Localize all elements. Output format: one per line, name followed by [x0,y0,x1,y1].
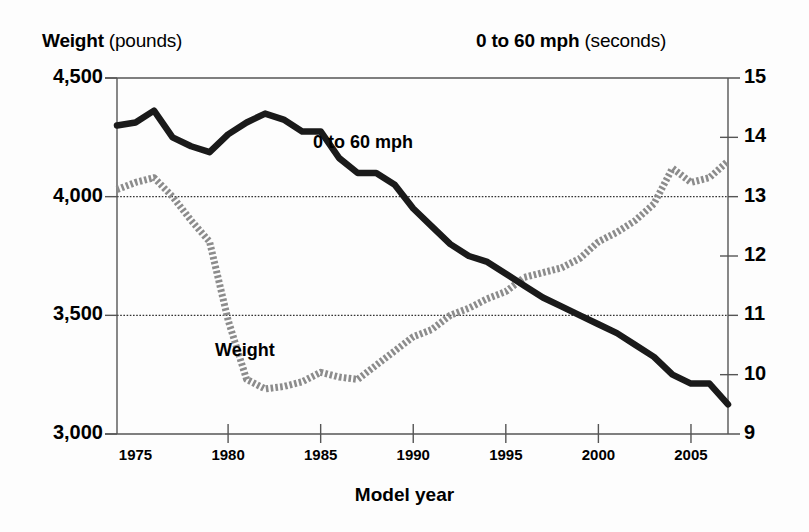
y-right-tick-13: 13 [744,184,794,207]
series-line-accel [117,111,728,405]
x-tick-1985: 1985 [291,446,351,463]
y-right-tick-9: 9 [744,421,794,444]
x-tick-1975: 1975 [106,446,166,463]
y-right-tick-15: 15 [744,65,794,88]
x-tick-2000: 2000 [568,446,628,463]
y-left-tick-3000: 3,000 [23,421,103,444]
series-label-accel: 0 to 60 mph [313,132,413,153]
y-left-tick-3500: 3,500 [23,302,103,325]
y-left-tick-4000: 4,000 [23,184,103,207]
y-right-tick-10: 10 [744,362,794,385]
y-right-tick-14: 14 [744,124,794,147]
x-axis-title: Model year [0,484,809,506]
x-tick-1990: 1990 [383,446,443,463]
series-label-weight: Weight [215,340,275,361]
series-line-weight [117,161,728,389]
chart-figure: Weight (pounds) 0 to 60 mph (seconds) 4,… [0,0,809,532]
x-tick-1995: 1995 [476,446,536,463]
x-tick-2005: 2005 [661,446,721,463]
y-left-tick-4500: 4,500 [23,65,103,88]
y-right-tick-11: 11 [744,302,794,325]
x-tick-1980: 1980 [198,446,258,463]
y-right-tick-12: 12 [744,243,794,266]
